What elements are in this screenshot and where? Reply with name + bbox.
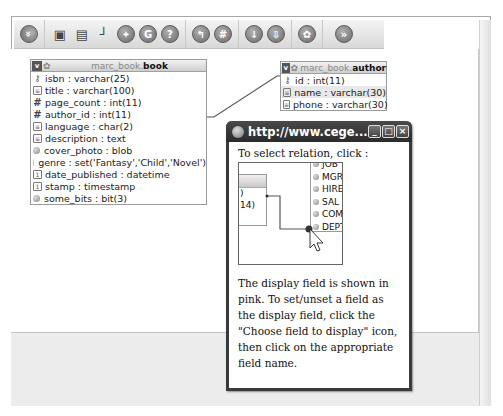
field-date-published[interactable]: 1date_published : datetime: [31, 168, 206, 180]
table-author-header[interactable]: v ✿ marc_book.author: [281, 62, 386, 74]
number-field-icon: #: [33, 110, 42, 119]
field-id[interactable]: ⚷id : int(11): [281, 74, 386, 86]
field-description[interactable]: ≡description : text: [31, 132, 206, 144]
text-field-icon: ≡: [283, 100, 290, 109]
popup-titlebar[interactable]: http://www.cege... _ □ ×: [226, 121, 412, 142]
table-book-title: marc_book.book: [53, 61, 206, 71]
field-label: title : varchar(100): [45, 85, 134, 96]
schema-name: marc_book.: [300, 63, 352, 73]
text-field-icon: ≡: [283, 88, 291, 97]
field-label: author_id : int(11): [45, 109, 131, 120]
field-name[interactable]: ≡name : varchar(30): [281, 86, 386, 98]
popup-description: The display field is shown in pink. To s…: [238, 275, 400, 371]
field-label: date_published : datetime: [45, 169, 170, 180]
field-phone[interactable]: ≡phone : varchar(30): [281, 98, 386, 110]
maximize-button[interactable]: □: [382, 125, 395, 138]
popup-body: To select relation, click : ) 14) JOB MG…: [229, 142, 409, 371]
popup-title: http://www.cege...: [248, 125, 367, 139]
mini-relation-line: [239, 163, 343, 265]
table-author-title: marc_book.author: [298, 63, 386, 73]
field-label: description : text: [45, 133, 126, 144]
table-author[interactable]: v ✿ marc_book.author ⚷id : int(11) ≡name…: [280, 61, 387, 111]
field-label: phone : varchar(30): [293, 99, 388, 110]
field-label: id : int(11): [295, 75, 345, 86]
choose-display-field-icon[interactable]: ✿: [291, 63, 299, 73]
schema-name: marc_book.: [91, 61, 143, 71]
field-label: language : char(2): [45, 121, 133, 132]
field-author-id[interactable]: #author_id : int(11): [31, 108, 206, 120]
field-label: name : varchar(30): [294, 87, 386, 98]
minimize-button[interactable]: _: [368, 125, 381, 138]
text-field-icon: ≡: [33, 122, 42, 131]
mouse-cursor-icon: [310, 229, 323, 251]
date-field-icon: 1: [33, 170, 42, 179]
field-label: genre : set('Fantasy','Child','Novel'): [38, 157, 206, 168]
field-some-bits[interactable]: some_bits : bit(3): [31, 192, 206, 204]
field-label: isbn : varchar(25): [45, 73, 130, 84]
field-language[interactable]: ≡language : char(2): [31, 120, 206, 132]
primary-key-icon: ⚷: [283, 76, 292, 85]
field-stamp[interactable]: 1stamp : timestamp: [31, 180, 206, 192]
other-field-icon: [33, 195, 40, 202]
field-label: page_count : int(11): [45, 97, 141, 108]
choose-display-field-icon[interactable]: ✿: [43, 61, 53, 71]
browser-app-icon: [232, 126, 244, 138]
field-label: cover_photo : blob: [44, 145, 132, 156]
table-book[interactable]: v ✿ marc_book.book ⚷isbn : varchar(25) ≡…: [30, 59, 207, 205]
primary-key-icon: ⚷: [33, 74, 42, 83]
toggle-table-icon[interactable]: v: [282, 63, 290, 73]
field-page-count[interactable]: #page_count : int(11): [31, 96, 206, 108]
close-button[interactable]: ×: [396, 125, 409, 138]
field-isbn[interactable]: ⚷isbn : varchar(25): [31, 72, 206, 84]
popup-intro-text: To select relation, click :: [238, 147, 400, 161]
field-label: some_bits : bit(3): [44, 193, 127, 204]
toggle-table-icon[interactable]: v: [32, 61, 42, 71]
help-popup-window: http://www.cege... _ □ × To select relat…: [226, 121, 412, 391]
field-label: stamp : timestamp: [45, 181, 135, 192]
field-genre[interactable]: genre : set('Fantasy','Child','Novel'): [31, 156, 206, 168]
number-field-icon: #: [33, 98, 42, 107]
relation-example-image: ) 14) JOB MGR HIRE SAL COM DEPT: [238, 162, 343, 265]
table-name: author: [352, 63, 386, 73]
other-field-icon: [33, 147, 40, 154]
table-name: book: [143, 61, 168, 71]
text-field-icon: ≡: [33, 86, 42, 95]
table-book-header[interactable]: v ✿ marc_book.book: [31, 60, 206, 72]
field-title[interactable]: ≡title : varchar(100): [31, 84, 206, 96]
date-field-icon: 1: [33, 182, 42, 191]
other-field-icon: [33, 159, 34, 166]
field-cover-photo[interactable]: cover_photo : blob: [31, 144, 206, 156]
text-field-icon: ≡: [33, 134, 42, 143]
